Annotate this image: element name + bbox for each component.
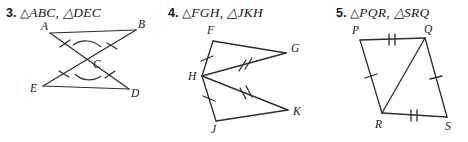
segment-AB (50, 30, 136, 33)
tick-CD (105, 71, 115, 78)
segment-PQ (360, 38, 425, 40)
angle-arc-ACB (73, 41, 101, 47)
tick-HK-2 (246, 86, 252, 97)
problem-3-figure: A B C D E (0, 0, 158, 142)
problem-3: 3. △ABC, △DEC (0, 0, 158, 142)
angle-arc-ECD (75, 74, 101, 80)
vertex-label-B: B (138, 18, 145, 30)
segment-KJ (216, 110, 288, 121)
segment-GH (202, 53, 286, 76)
problem-3-diagram: A B C D E (0, 0, 158, 142)
vertex-label-D: D (130, 87, 140, 99)
segment-HK (202, 76, 288, 110)
vertex-label-K: K (292, 105, 302, 117)
vertex-label-C: C (93, 58, 101, 70)
vertex-label-F: F (206, 24, 215, 36)
problem-4-diagram: F G H J K (158, 0, 314, 142)
problem-4-figure: F G H J K (158, 0, 314, 142)
segment-ED (43, 86, 129, 89)
segment-SR (382, 113, 447, 117)
problem-5-diagram: P Q R S (314, 0, 468, 142)
vertex-label-R: R (374, 118, 382, 130)
geometry-exercise-figure-strip: 3. △ABC, △DEC (0, 0, 468, 142)
vertex-label-E: E (29, 82, 37, 94)
vertex-label-J: J (211, 123, 217, 135)
problem-5: 5. △PQR, △SRQ (314, 0, 468, 142)
problem-4: 4. △FGH, △JKH (158, 0, 314, 142)
problem-5-figure: P Q R S (314, 0, 468, 142)
vertex-label-H: H (187, 70, 197, 82)
vertex-label-P: P (351, 24, 359, 36)
segment-FG (213, 41, 286, 53)
vertex-label-A: A (40, 20, 49, 32)
vertex-label-S: S (445, 120, 451, 132)
vertex-label-G: G (291, 42, 300, 54)
segment-QR-diagonal (382, 38, 425, 113)
vertex-label-Q: Q (424, 23, 433, 35)
